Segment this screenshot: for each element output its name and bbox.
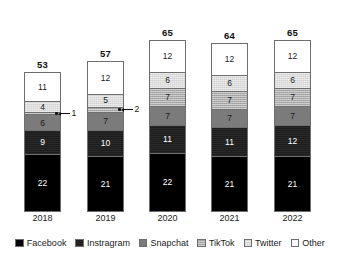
segment-tiktok-2021[interactable]: 7 [212, 91, 247, 109]
segment-value-label: 21 [288, 180, 297, 189]
legend-label: Facebook [27, 239, 67, 248]
segment-value-label: 7 [290, 93, 295, 102]
legend-item-twitter[interactable]: Twitter [244, 239, 282, 248]
legend-label: Snapchat [150, 239, 188, 248]
segment-facebook-2022[interactable]: 21 [275, 156, 310, 211]
x-tick-2021: 2021 [211, 213, 248, 223]
bar-total-label: 65 [287, 27, 298, 38]
legend-label: Other [302, 239, 325, 248]
x-tick-2019: 2019 [87, 213, 124, 223]
bar-stack-2020[interactable]: 126771122 [149, 40, 186, 212]
legend-label: Twitter [255, 239, 282, 248]
segment-snapchat-2019[interactable]: 7 [88, 112, 123, 130]
segment-value-label: 12 [288, 52, 297, 61]
bar-group-2021: 64126771121 [211, 30, 248, 212]
bar-total-label: 57 [100, 48, 111, 59]
segment-snapchat-2021[interactable]: 7 [212, 109, 247, 127]
x-tick-2020: 2020 [149, 213, 186, 223]
tiktok-swatch-icon [197, 239, 206, 248]
segment-snapchat-2022[interactable]: 7 [275, 106, 310, 124]
bar-group-2018: 531146922 [24, 59, 61, 212]
segment-tiktok-2020[interactable]: 7 [150, 88, 185, 106]
bar-group-2019: 5712571021 [87, 48, 124, 212]
segment-tiktok-2022[interactable]: 7 [275, 88, 310, 106]
segment-other-2022[interactable]: 12 [275, 41, 310, 72]
callout-tiktok-2018: 1 [55, 109, 76, 118]
segment-value-label: 11 [225, 138, 234, 147]
other-swatch-icon [291, 239, 300, 248]
callout-leader-line [124, 109, 133, 110]
segment-twitter-2021[interactable]: 6 [212, 75, 247, 91]
segment-facebook-2018[interactable]: 22 [25, 154, 60, 211]
legend-label: Instragram [87, 239, 130, 248]
segment-value-label: 12 [101, 74, 110, 83]
bar-group-2020: 65126771122 [149, 27, 186, 212]
bar-stack-2018[interactable]: 1146922 [24, 72, 61, 212]
segment-value-label: 21 [101, 180, 110, 189]
segment-instagram-2020[interactable]: 11 [150, 125, 185, 154]
segment-instagram-2019[interactable]: 10 [88, 130, 123, 156]
segment-value-label: 10 [101, 139, 110, 148]
legend-label: TikTok [209, 239, 235, 248]
legend-item-instagram[interactable]: Instragram [75, 239, 130, 248]
legend-item-other[interactable]: Other [291, 239, 325, 248]
x-tick-2022: 2022 [274, 213, 311, 223]
segment-value-label: 22 [38, 179, 47, 188]
segment-value-label: 11 [38, 83, 47, 92]
segment-other-2019[interactable]: 12 [88, 62, 123, 93]
segment-value-label: 22 [163, 178, 172, 187]
segment-facebook-2021[interactable]: 21 [212, 156, 247, 211]
callout-value-label: 1 [72, 109, 77, 118]
facebook-swatch-icon [15, 239, 24, 248]
x-axis-labels: 20182019202020212022 [0, 212, 340, 228]
segment-other-2020[interactable]: 12 [150, 41, 185, 72]
segment-twitter-2020[interactable]: 6 [150, 72, 185, 88]
chart-legend: FacebookInstragramSnapchatTikTokTwitterO… [0, 232, 340, 254]
bar-total-label: 65 [162, 27, 173, 38]
segment-other-2018[interactable]: 11 [25, 73, 60, 102]
segment-value-label: 7 [165, 112, 170, 121]
callout-leader-line [61, 113, 70, 114]
segment-other-2021[interactable]: 12 [212, 44, 247, 75]
callout-tiktok-2019: 2 [118, 105, 139, 114]
segment-value-label: 7 [290, 112, 295, 121]
segment-value-label: 6 [290, 76, 295, 85]
stacked-bar-chart: 5311469225712571021651267711226412677112… [0, 0, 340, 262]
segment-instagram-2021[interactable]: 11 [212, 127, 247, 156]
segment-value-label: 7 [227, 96, 232, 105]
x-tick-2018: 2018 [24, 213, 61, 223]
bar-total-label: 53 [37, 59, 48, 70]
snapchat-swatch-icon [139, 239, 148, 248]
bar-stack-2021[interactable]: 126771121 [211, 43, 248, 212]
segment-value-label: 7 [227, 114, 232, 123]
segment-instagram-2018[interactable]: 9 [25, 130, 60, 153]
segment-value-label: 6 [227, 79, 232, 88]
segment-value-label: 5 [103, 96, 108, 105]
legend-item-tiktok[interactable]: TikTok [197, 239, 234, 248]
segment-instagram-2022[interactable]: 12 [275, 125, 310, 156]
segment-value-label: 21 [225, 180, 234, 189]
segment-facebook-2019[interactable]: 21 [88, 156, 123, 211]
callout-value-label: 2 [135, 105, 140, 114]
segment-value-label: 4 [40, 103, 45, 112]
segment-twitter-2022[interactable]: 6 [275, 72, 310, 88]
legend-item-facebook[interactable]: Facebook [15, 239, 66, 248]
bar-total-label: 64 [224, 30, 235, 41]
segment-value-label: 11 [163, 135, 172, 144]
twitter-swatch-icon [244, 239, 253, 248]
plot-area: 5311469225712571021651267711226412677112… [0, 0, 340, 212]
segment-value-label: 6 [165, 76, 170, 85]
segment-value-label: 6 [40, 119, 45, 128]
segment-snapchat-2020[interactable]: 7 [150, 106, 185, 124]
segment-value-label: 12 [288, 137, 297, 146]
legend-item-snapchat[interactable]: Snapchat [139, 239, 189, 248]
segment-value-label: 12 [163, 52, 172, 61]
instagram-swatch-icon [75, 239, 84, 248]
segment-facebook-2020[interactable]: 22 [150, 153, 185, 211]
bar-stack-2019[interactable]: 12571021 [87, 61, 124, 212]
segment-value-label: 9 [40, 138, 45, 147]
segment-value-label: 7 [165, 93, 170, 102]
bar-stack-2022[interactable]: 126771221 [274, 40, 311, 212]
segment-value-label: 12 [225, 55, 234, 64]
bar-group-2022: 65126771221 [274, 27, 311, 212]
